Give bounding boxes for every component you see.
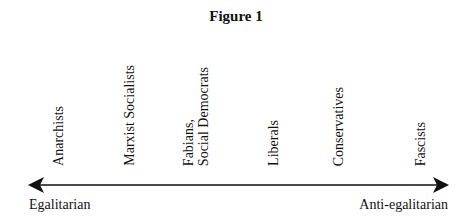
- anti-egalitarian-label: Anti-egalitarian: [359, 197, 448, 213]
- egalitarian-label: Egalitarian: [29, 197, 90, 213]
- double-arrow-axis: [0, 0, 472, 224]
